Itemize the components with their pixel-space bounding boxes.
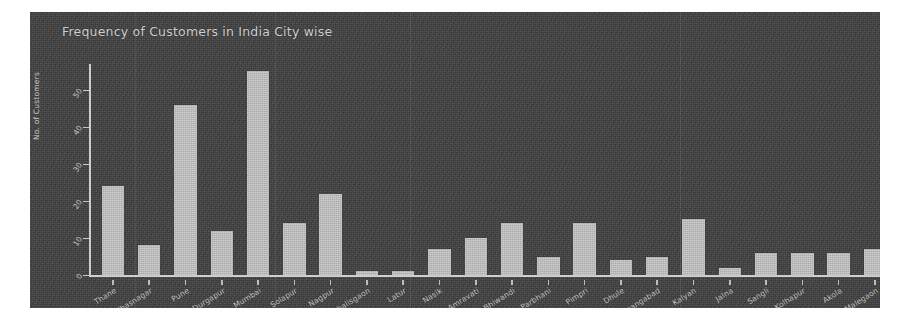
bar bbox=[428, 249, 450, 275]
chart-title: Frequency of Customers in India City wis… bbox=[62, 24, 332, 39]
y-tick-label-wrap: 20 bbox=[30, 196, 81, 206]
x-tick-mark bbox=[838, 280, 840, 285]
y-tick-label: 0 bbox=[75, 272, 85, 281]
bar bbox=[247, 71, 269, 275]
x-tick-label: Thane bbox=[62, 286, 118, 308]
x-tick-mark bbox=[330, 280, 332, 285]
bar bbox=[646, 257, 668, 276]
y-tick-label-wrap: 10 bbox=[30, 233, 81, 243]
y-tick-label: 50 bbox=[72, 87, 85, 100]
chart-page: Frequency of Customers in India City wis… bbox=[0, 0, 904, 320]
y-tick-label: 30 bbox=[72, 161, 85, 174]
x-tick-mark bbox=[257, 280, 259, 285]
y-tick-label-wrap: 40 bbox=[30, 122, 81, 132]
bars-group bbox=[89, 64, 880, 275]
x-tick-mark bbox=[185, 280, 187, 285]
bar bbox=[138, 245, 160, 275]
bar bbox=[719, 268, 741, 275]
y-tick-label: 10 bbox=[72, 235, 85, 248]
bar bbox=[501, 223, 523, 275]
bar bbox=[827, 253, 849, 275]
x-tick-mark bbox=[511, 280, 513, 285]
bar bbox=[610, 260, 632, 275]
x-tick-mark bbox=[294, 280, 296, 285]
y-tick-label-wrap: 0 bbox=[30, 270, 81, 280]
x-tick-mark bbox=[729, 280, 731, 285]
bar bbox=[573, 223, 595, 275]
x-tick-mark bbox=[693, 280, 695, 285]
x-axis-labels: ThaneUlhasnagarPuneDurgapurMumbaiSolapur… bbox=[89, 280, 880, 308]
x-tick-mark bbox=[548, 280, 550, 285]
bar bbox=[682, 219, 704, 275]
x-tick-mark bbox=[439, 280, 441, 285]
bar bbox=[864, 249, 880, 275]
bar bbox=[356, 271, 378, 275]
bar bbox=[211, 231, 233, 275]
x-tick-mark bbox=[874, 280, 876, 285]
x-tick-mark bbox=[112, 280, 114, 285]
x-axis-line bbox=[89, 275, 880, 277]
bar bbox=[791, 253, 813, 275]
x-tick-mark bbox=[620, 280, 622, 285]
x-tick-mark bbox=[765, 280, 767, 285]
y-tick-label: 20 bbox=[72, 198, 85, 211]
x-tick-mark bbox=[802, 280, 804, 285]
x-tick-mark bbox=[366, 280, 368, 285]
bar bbox=[465, 238, 487, 275]
x-tick-mark bbox=[221, 280, 223, 285]
x-tick-mark bbox=[402, 280, 404, 285]
bar bbox=[283, 223, 305, 275]
y-tick-label: 40 bbox=[72, 124, 85, 137]
bar bbox=[755, 253, 777, 275]
bar bbox=[319, 194, 341, 275]
x-tick-mark bbox=[475, 280, 477, 285]
bar bbox=[537, 257, 559, 276]
y-tick-label-wrap: 30 bbox=[30, 159, 81, 169]
chart-plot-background: Frequency of Customers in India City wis… bbox=[30, 12, 880, 308]
bar bbox=[102, 186, 124, 275]
bar bbox=[392, 271, 414, 275]
x-tick-mark bbox=[656, 280, 658, 285]
bar bbox=[174, 105, 196, 275]
x-tick-mark bbox=[584, 280, 586, 285]
x-tick-mark bbox=[148, 280, 150, 285]
y-tick-label-wrap: 50 bbox=[30, 85, 81, 95]
